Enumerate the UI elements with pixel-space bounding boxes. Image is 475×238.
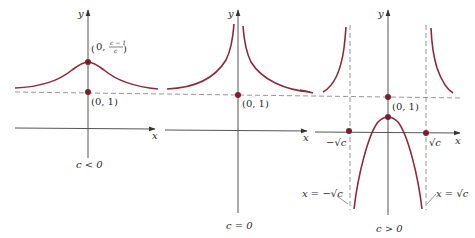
y-axis-label: y xyxy=(77,8,84,19)
max-point-prefix: 0, xyxy=(96,41,106,52)
y-axis-label: y xyxy=(377,8,384,19)
point-0-1-label: (0, 1) xyxy=(242,98,269,109)
point-0-1-label: (0, 1) xyxy=(392,101,419,112)
asymptote-neg-label: x = −√c xyxy=(302,188,343,199)
panel-caption: c > 0 xyxy=(376,223,403,234)
right-outer-branch xyxy=(431,28,453,93)
figure-canvas: y x ( 0, c − 1 c ) (0, 1) c < 0 y x (0, … xyxy=(0,0,475,238)
point-neg-sqrt-c xyxy=(346,128,352,134)
neg-sqrt-c-label: −√c xyxy=(326,137,347,148)
x-axis xyxy=(165,130,307,131)
inner-max-point xyxy=(385,114,391,120)
y-axis-label: y xyxy=(227,8,234,19)
fraction-denominator: c xyxy=(114,47,118,54)
panel-c-positive: y x (0, 1) −√c √c x = −√c x = √c c > 0 xyxy=(300,8,469,234)
right-branch xyxy=(243,26,310,92)
left-outer-branch xyxy=(323,27,346,92)
panel-c-negative: y x ( 0, c − 1 c ) (0, 1) c < 0 xyxy=(15,8,158,170)
x-axis-label: x xyxy=(152,130,158,141)
asymptote-pos-label: x = √c xyxy=(436,188,469,199)
x-axis-label: x xyxy=(455,135,461,146)
panel-c-zero: y x (0, 1) c = 0 xyxy=(165,8,310,231)
point-pos-sqrt-c xyxy=(423,130,429,136)
x-axis xyxy=(15,128,155,129)
paren-open: ( xyxy=(91,43,95,54)
point-0-1 xyxy=(85,89,91,95)
left-branch xyxy=(167,24,234,89)
point-0-1 xyxy=(385,94,391,100)
asymptote-pos-leader xyxy=(427,194,436,204)
max-point xyxy=(85,59,91,65)
bell-curve xyxy=(15,62,158,89)
point-0-1 xyxy=(235,92,241,98)
paren-close: ) xyxy=(123,43,127,54)
panel-caption: c < 0 xyxy=(76,159,103,170)
panel-caption: c = 0 xyxy=(226,220,253,231)
point-0-1-label: (0, 1) xyxy=(91,96,118,107)
x-axis-label: x xyxy=(303,132,309,143)
pos-sqrt-c-label: √c xyxy=(429,137,441,148)
